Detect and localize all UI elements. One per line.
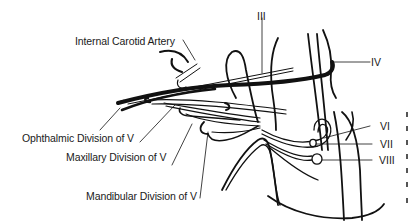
label-nerve-iv: IV: [371, 57, 381, 68]
posterior-fossa-arc: [268, 196, 384, 218]
label-internal-carotid-artery: Internal Carotid Artery: [75, 36, 175, 47]
trigeminal-ganglion-region: [208, 126, 260, 141]
label-mandibular-division: Mandibular Division of V: [86, 191, 197, 202]
label-nerve-viii: VIII: [379, 155, 395, 166]
label-nerve-vii: VII: [380, 139, 393, 150]
internal-carotid-artery-shape: [160, 51, 200, 88]
leader-maxillary: [172, 124, 192, 165]
label-ophthalmic-division: Ophthalmic Division of V: [22, 133, 134, 144]
leader-ophthalmic: [140, 105, 175, 142]
cranial-nerve-diagram: Internal Carotid Artery Ophthalmic Divis…: [0, 0, 412, 222]
anatomy-drawing: [0, 0, 412, 222]
cropped-text-fragments: [404, 112, 412, 212]
viii-ganglion: [312, 154, 322, 164]
leader-mandibular: [200, 132, 208, 198]
label-nerve-vi: VI: [380, 121, 390, 132]
dura-lines: [308, 30, 362, 220]
label-nerve-iii: III: [257, 11, 266, 22]
vii-ganglion: [310, 139, 316, 146]
label-maxillary-division: Maxillary Division of V: [66, 152, 166, 163]
